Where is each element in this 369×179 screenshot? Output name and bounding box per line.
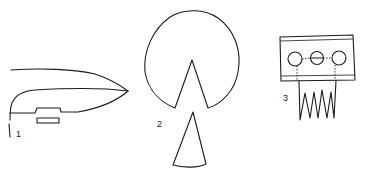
- diagram-canvas: [0, 0, 369, 179]
- figure-1-label: 1: [16, 130, 21, 139]
- figure-2-circle-wedge: [145, 11, 239, 167]
- figure-2-label: 2: [157, 120, 162, 129]
- figure-3-plate: [280, 35, 355, 120]
- figure-3-label: 3: [283, 94, 288, 103]
- figure-1-blade: [9, 69, 128, 137]
